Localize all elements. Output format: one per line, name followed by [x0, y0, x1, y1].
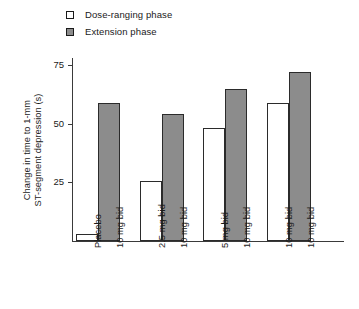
y-axis-tick-label: 25: [53, 176, 64, 187]
y-axis-title: Change in time to 1-mm ST-segment depres…: [20, 58, 46, 242]
legend-item-extension-phase: Extension phase: [66, 23, 296, 40]
y-axis-tick: 50: [68, 124, 72, 125]
y-axis-tick: 75: [68, 65, 72, 66]
x-axis-label-1: 10 mg bid: [114, 176, 126, 248]
x-axis-label-4: 5 mg bid: [219, 176, 231, 248]
x-axis-label-3: 10 mg bid: [178, 176, 190, 248]
y-axis-line: [72, 58, 73, 242]
legend-item-dose-ranging-phase: Dose-ranging phase: [66, 6, 296, 23]
x-axis-label-5: 10 mg bid: [241, 176, 253, 248]
y-axis-tick-label: 50: [53, 118, 64, 129]
x-axis-line: [72, 241, 344, 242]
bar-chart-figure: Dose-ranging phase Extension phase 25 50…: [0, 0, 359, 309]
y-axis-tick-label: 75: [53, 59, 64, 70]
y-axis-tick: 25: [68, 182, 72, 183]
x-axis-label-7: 10 mg bid: [305, 176, 317, 248]
chart-legend: Dose-ranging phase Extension phase: [66, 6, 296, 40]
legend-label-dose-ranging-phase: Dose-ranging phase: [85, 9, 172, 20]
x-axis-label-2: 2.5 mg bid: [156, 176, 168, 248]
x-axis-label-6: 10 mg bid: [283, 176, 295, 248]
legend-label-extension-phase: Extension phase: [85, 26, 157, 37]
y-axis-title-line-2: ST-segment depression (s): [33, 94, 43, 207]
legend-swatch-open-square-icon: [66, 11, 74, 19]
legend-swatch-filled-square-icon: [66, 28, 74, 36]
x-axis-label-0: Placebo: [92, 176, 104, 248]
plot-area: 25 50 75 Placebo 10 mg bid 2.5 mg bid 10…: [72, 58, 344, 242]
y-axis-title-line-1: Change in time to 1-mm: [22, 100, 32, 200]
